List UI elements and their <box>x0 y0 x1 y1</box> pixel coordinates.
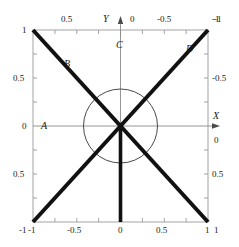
bottom-tick-label--0.5: -0.5 <box>67 226 81 235</box>
annotation-a: A <box>41 121 47 131</box>
right-tick-label--0.5: -0.5 <box>212 74 226 83</box>
coordinate-plot-figure <box>0 0 239 247</box>
right-tick-label-0.5: 0.5 <box>212 170 223 179</box>
top-tick-label--0.5: -0.5 <box>157 15 171 24</box>
x-axis-arrow <box>212 123 220 128</box>
left-tick-label-1: 1 <box>22 26 27 35</box>
y-axis-label: Y <box>103 14 109 24</box>
bottom-tick-label--1: -1 <box>28 226 36 235</box>
annotation-b: B <box>64 59 70 69</box>
bottom-tick-label-0.5: 0.5 <box>156 226 167 235</box>
right-tick-label-0: 0 <box>214 136 219 145</box>
left-tick-label-0.5-lower: 0.5 <box>13 170 24 179</box>
bottom-tick-label-1: 1 <box>205 226 210 235</box>
right-tick-label-1: 1 <box>214 226 219 235</box>
x-axis-label: X <box>213 111 219 121</box>
annotation-d: D <box>186 44 193 54</box>
right-tick-label--1: -1 <box>212 15 220 24</box>
top-tick-label-0: 0 <box>130 15 135 24</box>
top-tick-label-0.5: 0.5 <box>61 15 72 24</box>
left-tick-label-0.5: 0.5 <box>13 74 24 83</box>
left-tick-label--1: -1 <box>19 226 27 235</box>
y-axis-arrow <box>118 16 123 24</box>
annotation-c: C <box>116 40 123 50</box>
bottom-tick-label-0: 0 <box>118 226 123 235</box>
left-tick-label-0: 0 <box>22 122 27 131</box>
